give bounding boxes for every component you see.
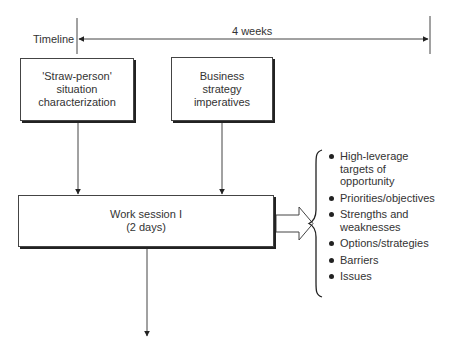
list-item: Barriers xyxy=(328,254,449,267)
list-item: Options/strategies xyxy=(328,237,449,250)
work-session-box: Work session I (2 days) xyxy=(18,195,274,247)
list-item: Strengths and weaknesses xyxy=(328,208,449,233)
timeline-duration: 4 weeks xyxy=(232,25,272,38)
list-item: Issues xyxy=(328,270,449,283)
outputs-list: High-leverage targets of opportunity Pri… xyxy=(328,150,449,287)
input-box-label: Business strategy imperatives xyxy=(194,70,250,109)
input-box-label: 'Straw-person' situation characterizatio… xyxy=(38,70,116,109)
hollow-arrow-icon xyxy=(276,207,313,240)
list-item: High-leverage targets of opportunity xyxy=(328,150,449,188)
input-box-straw-person: 'Straw-person' situation characterizatio… xyxy=(20,58,134,121)
list-item: Priorities/objectives xyxy=(328,192,449,205)
work-session-label: Work session I (2 days) xyxy=(110,208,182,234)
input-box-business-strategy: Business strategy imperatives xyxy=(171,57,273,121)
timeline-label: Timeline xyxy=(33,33,74,46)
